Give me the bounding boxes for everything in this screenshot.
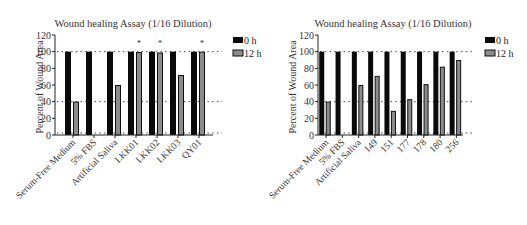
- y-tick-label: 0: [309, 130, 314, 141]
- chart-left-canvas: Wound healing Assay (1/16 Dilution)Perce…: [0, 0, 263, 225]
- bar-12h: [408, 100, 412, 135]
- bar-12h: [158, 53, 163, 135]
- y-tick-label: 100: [299, 46, 314, 57]
- chart-title: Wound healing Assay (1/16 Dilution): [314, 18, 472, 30]
- bar-0h: [107, 52, 113, 135]
- y-tick-label: 80: [304, 63, 314, 74]
- y-tick-label: 40: [41, 96, 51, 107]
- x-tick-label: Serum-Free Medium: [14, 137, 78, 201]
- legend-label: 0 h: [496, 35, 509, 46]
- x-tick-label: LKK03: [155, 137, 183, 165]
- x-tick-label: 178: [411, 137, 428, 154]
- significance-asterisk: *: [200, 39, 204, 48]
- x-tick-label: 177: [395, 137, 412, 154]
- bar-0h: [384, 52, 389, 135]
- bar-0h: [319, 52, 324, 135]
- y-tick-label: 100: [36, 46, 51, 57]
- bar-12h: [326, 102, 330, 135]
- y-tick-label: 0: [46, 130, 51, 141]
- legend-label: 0 h: [244, 35, 257, 46]
- bar-0h: [128, 52, 134, 135]
- y-tick-label: 80: [41, 63, 51, 74]
- x-tick-label: 180: [427, 137, 444, 154]
- bar-12h: [440, 67, 444, 135]
- bar-0h: [352, 52, 357, 135]
- bar-12h: [116, 86, 121, 136]
- x-tick-label: QY01: [180, 137, 204, 161]
- bar-12h: [179, 76, 184, 136]
- bar-12h: [137, 53, 142, 135]
- significance-asterisk: *: [137, 39, 141, 48]
- bar-0h: [450, 52, 455, 135]
- bar-0h: [401, 52, 406, 135]
- x-tick-label: 256: [444, 137, 461, 154]
- bar-12h: [200, 52, 205, 135]
- y-tick-label: 20: [41, 113, 51, 124]
- bar-0h: [433, 52, 438, 135]
- bar-0h: [65, 52, 71, 135]
- bar-0h: [336, 52, 341, 135]
- legend-swatch-0: [485, 37, 495, 43]
- y-tick-label: 60: [304, 80, 314, 91]
- legend-label: 12 h: [244, 48, 262, 59]
- chart-right-canvas: Wound healing Assay (1/16 Dilution)Perce…: [263, 0, 527, 225]
- legend-label: 12 h: [496, 48, 514, 59]
- bar-12h: [359, 86, 363, 136]
- y-tick-label: 20: [304, 113, 314, 124]
- chart-left: Wound healing Assay (1/16 Dilution)Perce…: [0, 0, 263, 225]
- bar-0h: [149, 52, 155, 135]
- bar-0h: [191, 52, 197, 135]
- x-tick-label: Serum-Free Medium: [267, 137, 331, 201]
- bar-12h: [375, 76, 379, 135]
- y-axis-label: Percent of Wound Area: [287, 40, 298, 134]
- y-tick-label: 40: [304, 96, 314, 107]
- y-tick-label: 60: [41, 80, 51, 91]
- chart-right: Wound healing Assay (1/16 Dilution)Perce…: [263, 0, 527, 225]
- bar-12h: [457, 61, 461, 136]
- bar-0h: [417, 52, 422, 135]
- bar-0h: [86, 52, 92, 135]
- legend-swatch-0: [233, 37, 243, 43]
- y-tick-label: 120: [299, 30, 314, 41]
- chart-title: Wound healing Assay (1/16 Dilution): [54, 18, 212, 30]
- bar-0h: [368, 52, 373, 135]
- x-tick-label: 149: [362, 137, 379, 154]
- x-tick-label: 151: [378, 137, 395, 154]
- bar-12h: [424, 85, 428, 135]
- y-tick-label: 120: [36, 30, 51, 41]
- significance-asterisk: *: [158, 39, 162, 48]
- bar-12h: [391, 111, 395, 135]
- legend-swatch-1: [485, 50, 495, 56]
- legend-swatch-1: [233, 50, 243, 56]
- bar-0h: [170, 52, 176, 135]
- bar-12h: [74, 102, 79, 135]
